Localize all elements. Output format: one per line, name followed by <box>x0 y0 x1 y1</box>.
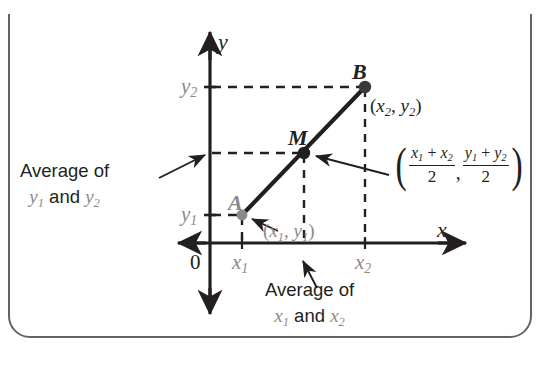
figure-frame-border <box>8 0 532 338</box>
frame-top-mask <box>0 0 556 14</box>
